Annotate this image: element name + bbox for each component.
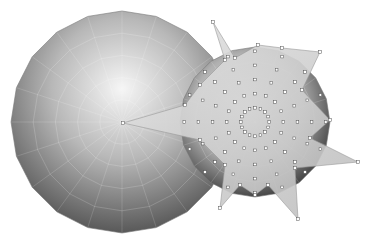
scene-canvas xyxy=(0,0,375,244)
